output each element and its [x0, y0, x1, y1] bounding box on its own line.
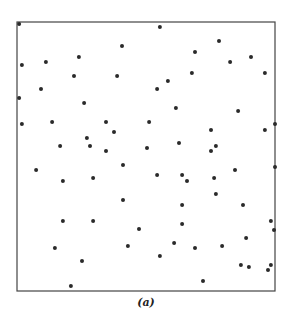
data-point [174, 106, 178, 110]
data-point [228, 60, 232, 64]
data-point [61, 219, 65, 223]
data-point [72, 74, 76, 78]
data-point [185, 179, 189, 183]
data-point [91, 176, 95, 180]
data-point [241, 203, 245, 207]
data-point [69, 284, 73, 288]
data-point [190, 71, 194, 75]
data-point [193, 246, 197, 250]
data-point [263, 71, 267, 75]
data-point [155, 87, 159, 91]
data-point [77, 55, 81, 59]
points-group [17, 22, 277, 288]
data-point [121, 198, 125, 202]
data-point [269, 263, 273, 267]
data-point [172, 241, 176, 245]
data-point [217, 39, 221, 43]
data-point [126, 244, 130, 248]
data-point [82, 101, 86, 105]
scatter-plot [0, 0, 292, 325]
data-point [112, 130, 116, 134]
data-point [233, 168, 237, 172]
data-point [17, 22, 21, 26]
data-point [61, 179, 65, 183]
data-point [236, 109, 240, 113]
data-point [44, 60, 48, 64]
data-point [39, 87, 43, 91]
data-point [269, 219, 273, 223]
data-point [147, 120, 151, 124]
data-point [180, 203, 184, 207]
data-point [80, 259, 84, 263]
data-point [180, 173, 184, 177]
data-point [20, 122, 24, 126]
data-point [145, 146, 149, 150]
data-point [244, 236, 248, 240]
data-point [263, 128, 267, 132]
data-point [85, 136, 89, 140]
data-point [273, 122, 277, 126]
data-point [273, 165, 277, 169]
data-point [120, 44, 124, 48]
data-point [121, 163, 125, 167]
data-point [34, 168, 38, 172]
data-point [104, 149, 108, 153]
data-point [220, 244, 224, 248]
data-point [201, 279, 205, 283]
data-point [158, 254, 162, 258]
data-point [17, 96, 21, 100]
data-point [214, 192, 218, 196]
data-point [209, 128, 213, 132]
data-point [209, 149, 213, 153]
data-point [155, 173, 159, 177]
data-point [272, 228, 276, 232]
data-point [180, 222, 184, 226]
data-point [91, 219, 95, 223]
data-point [158, 25, 162, 29]
data-point [137, 227, 141, 231]
data-point [239, 263, 243, 267]
data-point [20, 63, 24, 67]
plot-frame [17, 22, 275, 291]
figure-caption: (a) [0, 296, 292, 309]
data-point [104, 120, 108, 124]
data-point [115, 74, 119, 78]
data-point [58, 144, 62, 148]
data-point [212, 176, 216, 180]
data-point [247, 265, 251, 269]
data-point [88, 144, 92, 148]
data-point [166, 79, 170, 83]
data-point [53, 246, 57, 250]
data-point [266, 268, 270, 272]
data-point [214, 144, 218, 148]
data-point [50, 120, 54, 124]
data-point [249, 55, 253, 59]
data-point [193, 50, 197, 54]
data-point [177, 141, 181, 145]
